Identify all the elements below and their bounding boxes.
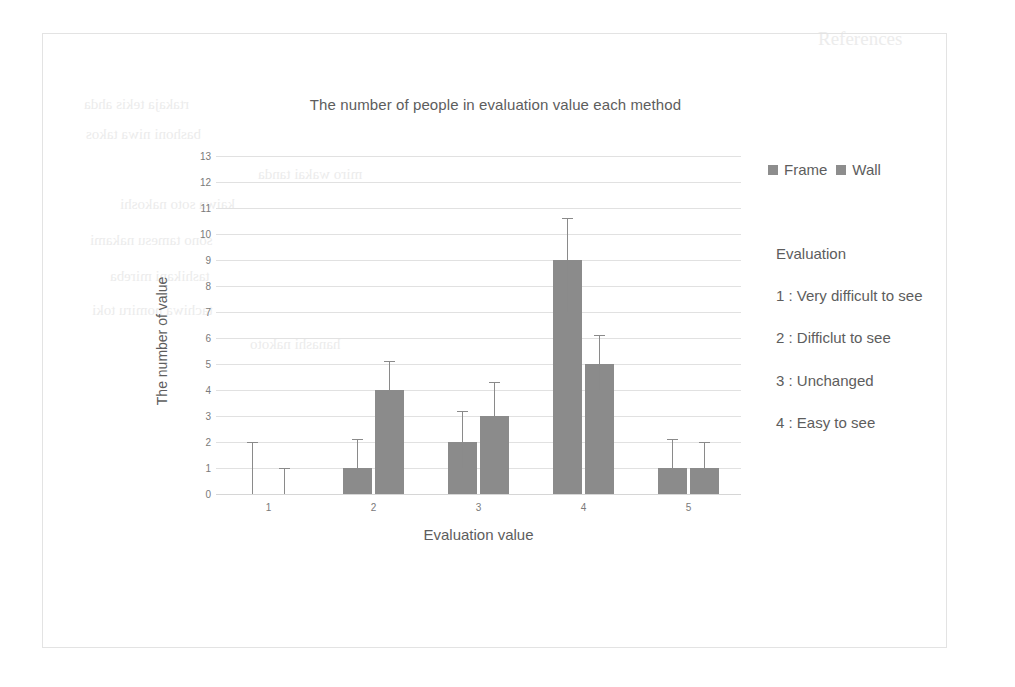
- y-tick-label-10: 10: [183, 229, 211, 240]
- y-tick-label-1: 1: [183, 463, 211, 474]
- bar-slot-frame-2[interactable]: [343, 156, 372, 494]
- bar-group-1: [216, 156, 321, 494]
- y-tick-label-5: 5: [183, 359, 211, 370]
- bar-slot-wall-4[interactable]: [585, 156, 614, 494]
- bar-slot-frame-4[interactable]: [553, 156, 582, 494]
- bar-slot-wall-5[interactable]: [690, 156, 719, 494]
- bar-wall-2[interactable]: [375, 390, 404, 494]
- y-axis-title-text: The number of value: [154, 277, 170, 405]
- y-tick-label-12: 12: [183, 177, 211, 188]
- plot-wrapper: The number of value 012345678910111213 1…: [43, 34, 948, 649]
- error-bar-wall-2: [389, 361, 390, 390]
- y-tick-label-9: 9: [183, 255, 211, 266]
- error-bar-frame-3: [462, 411, 463, 468]
- bar-wall-3[interactable]: [480, 416, 509, 494]
- plot-area: [216, 156, 741, 494]
- error-bar-wall-5: [704, 442, 705, 468]
- bar-slot-frame-5[interactable]: [658, 156, 687, 494]
- bar-wall-5[interactable]: [690, 468, 719, 494]
- bar-slot-frame-3[interactable]: [448, 156, 477, 494]
- y-tick-label-6: 6: [183, 333, 211, 344]
- error-cap-top-frame-3: [457, 411, 468, 412]
- bars-layer: [216, 156, 741, 494]
- y-tick-label-3: 3: [183, 411, 211, 422]
- error-bar-wall-3: [494, 382, 495, 416]
- error-bar-frame-1: [252, 442, 253, 494]
- y-tick-label-11: 11: [183, 203, 211, 214]
- bar-group-4: [531, 156, 636, 494]
- error-cap-top-frame-2: [352, 439, 363, 440]
- error-cap-top-wall-3: [489, 382, 500, 383]
- error-cap-top-frame-1: [247, 442, 258, 443]
- bar-group-2: [321, 156, 426, 494]
- y-tick-label-0: 0: [183, 489, 211, 500]
- x-tick-label-4: 4: [581, 502, 587, 513]
- error-bar-frame-5: [672, 439, 673, 468]
- x-tick-label-2: 2: [371, 502, 377, 513]
- bar-slot-wall-1[interactable]: [270, 156, 299, 494]
- y-tick-label-8: 8: [183, 281, 211, 292]
- y-tick-label-4: 4: [183, 385, 211, 396]
- error-bar-wall-1: [284, 468, 285, 494]
- error-cap-top-wall-1: [279, 468, 290, 469]
- error-cap-top-frame-4: [562, 218, 573, 219]
- y-axis-title: The number of value: [151, 231, 173, 451]
- x-tick-label-5: 5: [686, 502, 692, 513]
- error-cap-top-wall-4: [594, 335, 605, 336]
- bar-slot-frame-1[interactable]: [238, 156, 267, 494]
- error-bar-wall-4: [599, 335, 600, 390]
- bar-frame-5[interactable]: [658, 468, 687, 494]
- gridline-0: [216, 494, 741, 495]
- bar-slot-wall-3[interactable]: [480, 156, 509, 494]
- y-tick-label-13: 13: [183, 151, 211, 162]
- x-tick-label-1: 1: [266, 502, 272, 513]
- bar-frame-2[interactable]: [343, 468, 372, 494]
- error-cap-top-wall-2: [384, 361, 395, 362]
- error-cap-top-frame-5: [667, 439, 678, 440]
- x-axis-title: Evaluation value: [216, 526, 741, 543]
- y-axis-ticks: 012345678910111213: [183, 156, 211, 494]
- bar-group-3: [426, 156, 531, 494]
- chart-panel: The number of people in evaluation value…: [42, 33, 947, 648]
- error-bar-frame-4: [567, 218, 568, 312]
- y-tick-label-2: 2: [183, 437, 211, 448]
- bar-group-5: [636, 156, 741, 494]
- x-tick-label-3: 3: [476, 502, 482, 513]
- x-axis-ticks: 12345: [216, 502, 741, 518]
- y-tick-label-7: 7: [183, 307, 211, 318]
- bar-slot-wall-2[interactable]: [375, 156, 404, 494]
- error-bar-frame-2: [357, 439, 358, 468]
- error-cap-top-wall-5: [699, 442, 710, 443]
